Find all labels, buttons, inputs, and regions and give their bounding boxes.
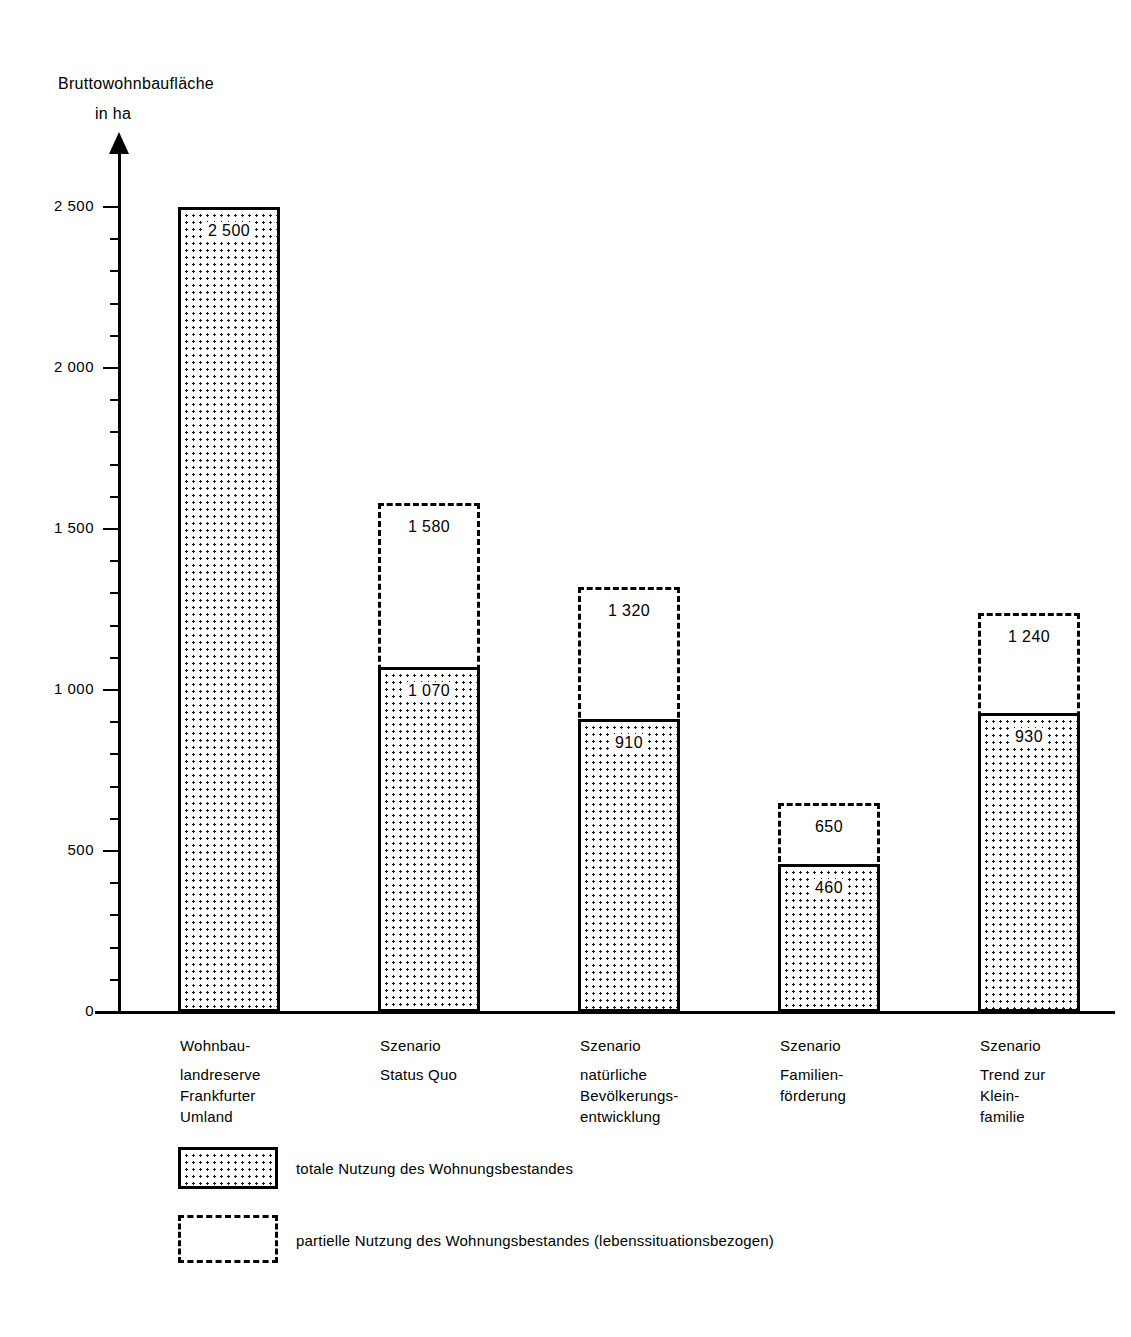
y-tick-minor — [110, 947, 120, 949]
plot-area: 05001 0001 5002 0002 500 2 5001 5801 070… — [0, 0, 1131, 1337]
category-label-body: Familien- förderung — [780, 1064, 846, 1106]
y-tick-minor — [110, 560, 120, 562]
y-tick-minor — [110, 721, 120, 723]
y-tick-minor — [110, 657, 120, 659]
y-tick-minor — [110, 335, 120, 337]
y-tick-minor — [110, 592, 120, 594]
y-tick-minor — [110, 914, 120, 916]
y-tick-major — [103, 206, 120, 208]
y-tick-major — [103, 1011, 120, 1013]
y-tick-minor — [110, 238, 120, 240]
category-label-body: landreserve Frankfurter Umland — [180, 1064, 261, 1127]
bar-totale — [578, 719, 680, 1012]
y-tick-label: 0 — [18, 1002, 94, 1019]
y-tick-label: 1 500 — [18, 519, 94, 536]
bar-value-partielle: 1 240 — [978, 628, 1080, 646]
chart-page: Bruttowohnbaufläche in ha 05001 0001 500… — [0, 0, 1131, 1337]
bar-value-totale: 1 070 — [378, 682, 480, 700]
y-tick-major — [103, 850, 120, 852]
bar-totale — [378, 667, 480, 1012]
category-label: SzenarioTrend zur Klein- familie — [980, 1035, 1045, 1127]
category-label-body: Status Quo — [380, 1064, 457, 1085]
category-label-head: Szenario — [380, 1035, 457, 1056]
category-label-head: Szenario — [780, 1035, 846, 1056]
y-tick-label: 2 000 — [18, 358, 94, 375]
y-tick-label: 500 — [18, 841, 94, 858]
y-tick-minor — [110, 979, 120, 981]
y-tick-label: 2 500 — [18, 197, 94, 214]
y-tick-minor — [110, 786, 120, 788]
bar-value-partielle: 1 580 — [378, 518, 480, 536]
bar-totale — [978, 713, 1080, 1012]
y-tick-minor — [110, 431, 120, 433]
legend-swatch-totale — [178, 1147, 278, 1189]
y-tick-minor — [110, 753, 120, 755]
y-tick-minor — [110, 496, 120, 498]
category-label: SzenarioFamilien- förderung — [780, 1035, 846, 1106]
category-label: SzenarioStatus Quo — [380, 1035, 457, 1085]
y-tick-minor — [110, 625, 120, 627]
y-tick-minor — [110, 303, 120, 305]
category-label-body: Trend zur Klein- familie — [980, 1064, 1045, 1127]
y-tick-label: 1 000 — [18, 680, 94, 697]
y-tick-minor — [110, 818, 120, 820]
category-label-head: Szenario — [980, 1035, 1045, 1056]
category-label: Szenarionatürliche Bevölkerungs- entwick… — [580, 1035, 678, 1127]
y-tick-minor — [110, 270, 120, 272]
legend-label-totale: totale Nutzung des Wohnungsbestandes — [296, 1160, 573, 1177]
bar-value-totale: 910 — [578, 734, 680, 752]
category-label: Wohnbau-landreserve Frankfurter Umland — [180, 1035, 261, 1127]
y-tick-major — [103, 689, 120, 691]
bar-totale — [178, 207, 280, 1012]
y-tick-major — [103, 528, 120, 530]
bar-value-totale: 460 — [778, 879, 880, 897]
y-tick-major — [103, 367, 120, 369]
y-tick-minor — [110, 464, 120, 466]
y-tick-minor — [110, 399, 120, 401]
legend-swatch-partielle — [178, 1215, 278, 1263]
bar-value-totale: 930 — [978, 728, 1080, 746]
category-label-head: Wohnbau- — [180, 1035, 261, 1056]
y-tick-minor — [110, 882, 120, 884]
category-label-body: natürliche Bevölkerungs- entwicklung — [580, 1064, 678, 1127]
legend-label-partielle: partielle Nutzung des Wohnungsbestandes … — [296, 1232, 774, 1249]
category-label-head: Szenario — [580, 1035, 678, 1056]
bar-value-partielle: 2 500 — [178, 222, 280, 240]
bar-value-partielle: 650 — [778, 818, 880, 836]
bar-value-partielle: 1 320 — [578, 602, 680, 620]
